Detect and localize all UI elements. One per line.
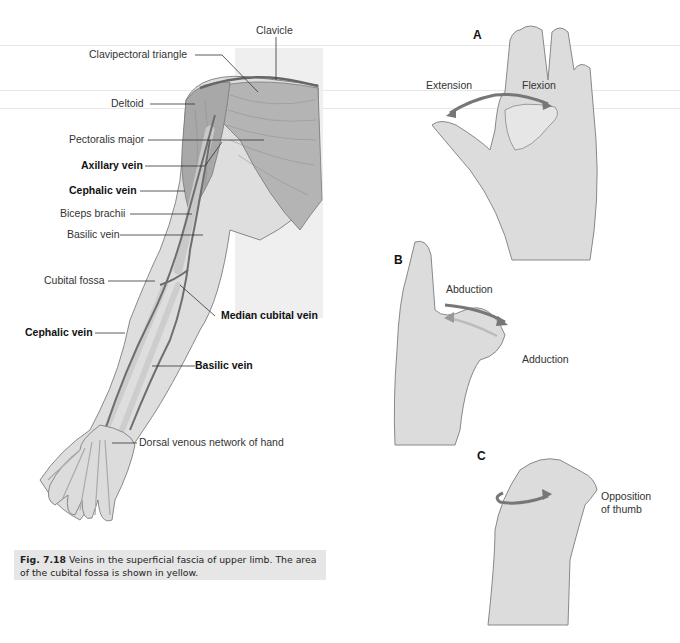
panel-letter-c: C: [477, 449, 486, 463]
label-opposition-line1: Opposition: [601, 490, 651, 502]
label-biceps-brachii: Biceps brachii: [60, 207, 125, 219]
figure-number: Fig. 7.18: [20, 554, 66, 565]
label-extension: Extension: [426, 79, 472, 91]
panel-letter-a: A: [473, 28, 482, 42]
label-deltoid: Deltoid: [111, 97, 144, 109]
label-basilic-vein-lower: Basilic vein: [195, 359, 253, 371]
hand-b: [394, 241, 505, 445]
label-opposition-line2: of thumb: [601, 503, 642, 515]
label-pectoralis-major: Pectoralis major: [69, 133, 144, 145]
label-cubital-fossa: Cubital fossa: [44, 274, 105, 286]
label-flexion: Flexion: [522, 79, 556, 91]
label-median-cubital-vein: Median cubital vein: [221, 309, 318, 321]
label-cephalic-vein-lower: Cephalic vein: [25, 326, 93, 338]
label-axillary-vein: Axillary vein: [81, 159, 143, 171]
hand-c: [488, 459, 597, 625]
panel-letter-b: B: [394, 253, 403, 267]
label-adduction: Adduction: [522, 353, 569, 365]
label-abduction: Abduction: [446, 283, 493, 295]
label-opposition-of-thumb: Opposition of thumb: [601, 490, 651, 516]
label-clavipectoral-triangle: Clavipectoral triangle: [89, 48, 187, 60]
label-dorsal-venous-network: Dorsal venous network of hand: [139, 436, 284, 448]
anatomy-illustration: [0, 0, 680, 643]
figure-caption: Fig. 7.18 Veins in the superficial fasci…: [14, 550, 326, 580]
label-cephalic-vein-upper: Cephalic vein: [69, 184, 137, 196]
label-clavicle: Clavicle: [256, 24, 293, 36]
label-basilic-vein-upper: Basilic vein: [67, 228, 120, 240]
